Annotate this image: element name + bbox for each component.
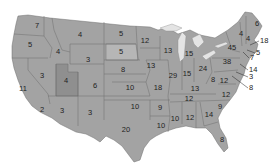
callout-label-connecticut: 7 bbox=[250, 54, 254, 62]
state-label-nebraska: 8 bbox=[121, 66, 125, 74]
state-label-indiana: 15 bbox=[183, 70, 191, 78]
state-label-georgia: 14 bbox=[205, 111, 213, 119]
callout-label-rhode-island: 5 bbox=[256, 49, 260, 57]
state-label-north-dakota: 5 bbox=[119, 30, 123, 38]
state-label-virginia: 12 bbox=[220, 77, 228, 85]
state-label-california: 11 bbox=[19, 85, 27, 93]
state-label-kansas: 10 bbox=[126, 84, 134, 92]
state-label-new-york: 45 bbox=[228, 44, 236, 52]
state-label-mississippi: 10 bbox=[171, 115, 179, 123]
state-label-montana: 4 bbox=[78, 31, 82, 39]
state-label-michigan: 15 bbox=[185, 50, 193, 58]
state-label-louisiana: 10 bbox=[157, 122, 165, 130]
state-label-washington: 7 bbox=[35, 22, 39, 30]
callout-label-massachusetts: 18 bbox=[260, 37, 268, 45]
callout-label-maryland: 8 bbox=[249, 84, 253, 92]
state-label-minnesota: 12 bbox=[141, 37, 149, 45]
state-label-iowa: 13 bbox=[147, 62, 155, 70]
callout-label-delaware: 3 bbox=[249, 73, 253, 81]
state-label-wyoming: 3 bbox=[86, 56, 90, 64]
state-label-wisconsin: 13 bbox=[164, 47, 172, 55]
state-label-colorado: 6 bbox=[93, 82, 97, 90]
state-label-utah: 4 bbox=[64, 77, 68, 85]
state-label-idaho: 4 bbox=[56, 48, 60, 56]
state-label-arizona: 3 bbox=[60, 107, 64, 115]
state-label-oklahoma: 10 bbox=[131, 103, 139, 111]
state-label-vermont: 4 bbox=[239, 30, 243, 38]
state-label-illinois: 29 bbox=[169, 72, 177, 80]
state-label-south-carolina: 9 bbox=[218, 103, 222, 111]
state-label-nevada: 3 bbox=[40, 72, 44, 80]
state-label-oregon: 5 bbox=[28, 41, 32, 49]
state-label-pennsylvania: 38 bbox=[223, 58, 231, 66]
state-label-south-dakota: 5 bbox=[119, 48, 123, 56]
state-label-west-virginia: 8 bbox=[211, 76, 215, 84]
state-label-arkansas: 9 bbox=[158, 104, 162, 112]
state-label-california-south: 2 bbox=[40, 106, 44, 114]
state-label-alabama: 12 bbox=[186, 114, 194, 122]
state-label-texas: 20 bbox=[122, 126, 130, 134]
state-label-new-hampshire: 4 bbox=[246, 35, 250, 43]
state-label-ohio: 24 bbox=[199, 65, 207, 73]
state-label-maine: 6 bbox=[255, 20, 259, 28]
state-label-florida: 8 bbox=[220, 136, 224, 144]
state-label-tennessee: 12 bbox=[185, 95, 193, 103]
state-label-missouri: 18 bbox=[154, 84, 162, 92]
state-label-kentucky: 13 bbox=[191, 85, 199, 93]
state-label-north-carolina: 12 bbox=[222, 91, 230, 99]
state-label-new-mexico: 3 bbox=[88, 109, 92, 117]
us-map-shape bbox=[0, 0, 274, 168]
us-electoral-map: 7 5 11 2 3 4 4 3 4 6 3 3 5 5 8 10 10 20 … bbox=[0, 0, 274, 168]
